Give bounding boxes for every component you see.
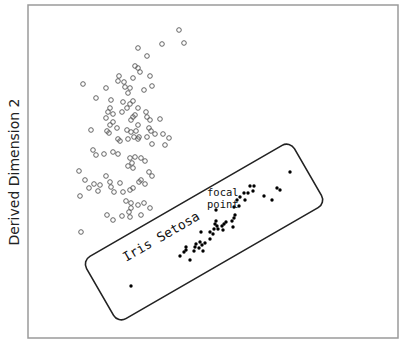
data-point <box>192 249 195 252</box>
plot-frame <box>28 5 398 338</box>
data-point <box>212 227 215 230</box>
data-point <box>238 195 241 198</box>
data-point <box>278 188 281 191</box>
data-point <box>224 220 227 223</box>
data-point <box>178 254 181 257</box>
data-point <box>230 219 233 222</box>
data-point <box>246 191 249 194</box>
data-point <box>215 224 218 227</box>
data-point <box>211 232 214 235</box>
data-point <box>243 198 246 201</box>
data-point <box>262 194 265 197</box>
data-point <box>231 225 234 228</box>
data-point <box>252 184 255 187</box>
data-point <box>198 240 201 243</box>
data-point <box>221 228 224 231</box>
data-point <box>129 284 132 287</box>
data-point <box>251 189 254 192</box>
point-label: point <box>207 198 239 210</box>
data-point <box>201 249 204 252</box>
data-point <box>232 216 235 219</box>
data-point <box>248 184 251 187</box>
focal-label: focal <box>207 186 239 198</box>
data-point <box>208 230 211 233</box>
data-point <box>203 241 206 244</box>
data-point <box>197 246 200 249</box>
data-point <box>208 237 211 240</box>
data-point <box>200 243 203 246</box>
data-point <box>216 227 219 230</box>
data-point <box>233 213 236 216</box>
data-point <box>194 242 197 245</box>
data-point <box>242 191 245 194</box>
data-point <box>184 248 187 251</box>
data-point <box>275 186 278 189</box>
data-point <box>193 245 196 248</box>
scatter-chart: Iris Setosa focal point <box>0 0 405 344</box>
data-point <box>288 170 291 173</box>
y-axis-label: Derived Dimension 2 <box>6 98 22 245</box>
data-point <box>188 258 191 261</box>
data-point <box>184 245 187 248</box>
data-point <box>214 219 217 222</box>
data-point <box>270 198 273 201</box>
data-point <box>199 230 202 233</box>
